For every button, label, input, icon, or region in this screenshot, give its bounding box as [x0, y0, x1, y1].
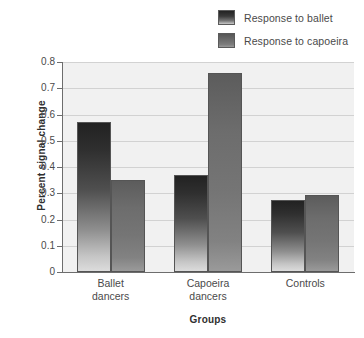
legend-label-series-2: Response to capoeira [244, 35, 348, 47]
bar-ballet-dancers-series-1 [77, 122, 111, 272]
bar-capoeira-dancers-series-2 [208, 73, 242, 273]
y-tick-label: 0 [3, 266, 55, 277]
bar-chart-figure: Response to ballet Response to capoeira … [0, 0, 364, 338]
legend-item-response-to-ballet: Response to ballet [218, 10, 348, 25]
y-axis-ticks: 00.10.20.30.40.50.60.70.8 [0, 0, 55, 338]
x-label-line: Controls [257, 277, 354, 290]
legend-swatch-icon-series-2 [218, 33, 235, 48]
x-axis-category-labels: BalletdancersCapoeiradancersControls [62, 277, 354, 311]
y-tick-label: 0.4 [3, 161, 55, 172]
y-tick-label: 0.2 [3, 214, 55, 225]
y-tick-label: 0.3 [3, 187, 55, 198]
legend-item-response-to-capoeira: Response to capoeira [218, 33, 348, 48]
bar-capoeira-dancers-series-1 [174, 175, 208, 272]
x-label-capoeira-dancers: Capoeiradancers [159, 277, 256, 302]
y-tick-label: 0.7 [3, 82, 55, 93]
x-label-ballet-dancers: Balletdancers [62, 277, 159, 302]
x-axis-title: Groups [62, 314, 354, 325]
bar-controls-series-1 [271, 200, 305, 272]
x-axis-line [62, 272, 355, 273]
bar-ballet-dancers-series-2 [111, 180, 145, 272]
legend-swatch-icon-series-1 [218, 10, 235, 25]
legend-label-series-1: Response to ballet [244, 12, 333, 24]
x-label-line: dancers [62, 290, 159, 303]
bar-controls-series-2 [305, 195, 339, 272]
x-label-line: Capoeira [159, 277, 256, 290]
x-label-line: dancers [159, 290, 256, 303]
y-tick-label: 0.8 [3, 56, 55, 67]
y-tick-label: 0.5 [3, 135, 55, 146]
x-label-line: Ballet [62, 277, 159, 290]
y-tick-label: 0.6 [3, 109, 55, 120]
x-label-controls: Controls [257, 277, 354, 290]
y-tick-label: 0.1 [3, 240, 55, 251]
bar-series-container [62, 62, 354, 272]
y-tick-mark [57, 272, 62, 273]
chart-legend: Response to ballet Response to capoeira [218, 10, 348, 48]
